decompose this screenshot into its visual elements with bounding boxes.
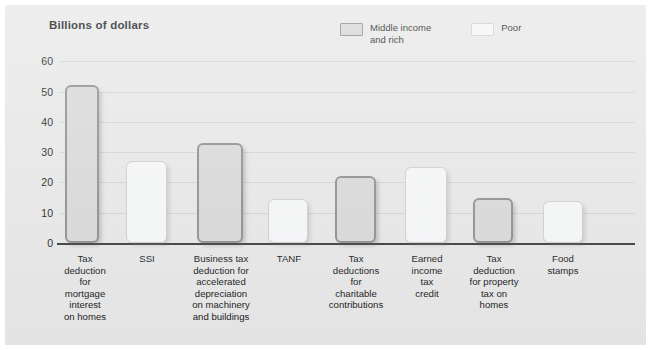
- category-label-6: Earned income tax credit: [399, 253, 455, 299]
- category-label-8: Food stamps: [535, 253, 591, 276]
- bar-5[interactable]: [335, 176, 376, 243]
- bar-8[interactable]: [543, 201, 583, 243]
- bar-3[interactable]: [197, 143, 243, 243]
- category-label-7: Tax deduction for property tax on homes: [465, 253, 523, 311]
- category-label-4: TANF: [260, 253, 318, 265]
- bar-7[interactable]: [473, 198, 513, 243]
- bar-4[interactable]: [268, 199, 308, 243]
- bar-2[interactable]: [126, 161, 167, 243]
- bar-1[interactable]: [65, 85, 99, 243]
- bar-6[interactable]: [405, 167, 447, 243]
- category-label-2: SSI: [123, 253, 171, 265]
- category-label-3: Business tax deduction for accelerated d…: [188, 253, 254, 323]
- chart-panel: Billions of dollars Middle income and ri…: [5, 5, 646, 345]
- category-label-5: Tax deductions for charitable contributi…: [327, 253, 385, 311]
- category-label-1: Tax deduction for mortgage interest on h…: [59, 253, 111, 323]
